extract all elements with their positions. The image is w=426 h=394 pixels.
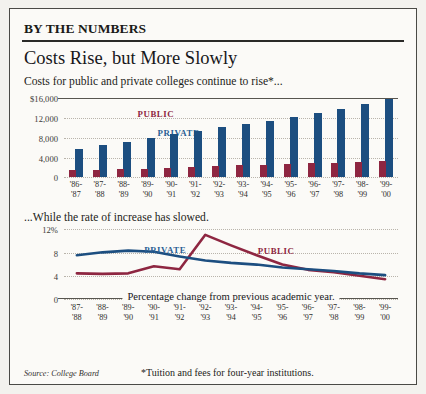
x-label-bottom: '95 bbox=[255, 190, 279, 200]
x-axis-label: '95-'96 bbox=[279, 180, 303, 200]
x-label-bottom: '95 bbox=[244, 313, 270, 323]
footnote-text: *Tuition and fees for four-year institut… bbox=[141, 367, 314, 378]
x-label-bottom: '90 bbox=[136, 190, 160, 200]
bar-private bbox=[385, 99, 393, 178]
x-label-bottom: '98 bbox=[326, 190, 350, 200]
bar-public bbox=[212, 166, 219, 177]
x-label-bottom: '89 bbox=[90, 313, 116, 323]
bar-public bbox=[331, 163, 338, 178]
infographic-content: BY THE NUMBERS Costs Rise, but More Slow… bbox=[22, 17, 404, 378]
x-label-bottom: '00 bbox=[374, 190, 398, 200]
bar-axis-line bbox=[58, 98, 398, 99]
x-label-top: '88- bbox=[90, 303, 116, 313]
x-axis-label: '89-'90 bbox=[136, 180, 160, 200]
x-axis-label: '92-'93 bbox=[192, 303, 218, 323]
line-series-svg bbox=[64, 229, 398, 299]
bar-public bbox=[308, 163, 315, 177]
bar-private bbox=[266, 121, 274, 178]
bar-plot-area: $16,00012,0008,0004,0000 PUBLIC PRIVATE bbox=[64, 98, 398, 177]
x-label-bottom: '00 bbox=[372, 313, 398, 323]
x-axis-label: '89-'90 bbox=[115, 303, 141, 323]
bar-group bbox=[88, 98, 112, 177]
x-axis-label: '88-'89 bbox=[112, 180, 136, 200]
bar-series-container bbox=[64, 98, 398, 177]
x-label-top: '89- bbox=[136, 180, 160, 190]
y-axis-tick: 8 bbox=[54, 249, 58, 259]
x-label-top: '96- bbox=[295, 303, 321, 313]
gridline: 0 bbox=[64, 177, 398, 178]
x-label-top: '90- bbox=[159, 180, 183, 190]
bar-public bbox=[236, 165, 243, 177]
y-axis-tick: 8,000 bbox=[39, 134, 58, 144]
x-axis-label: '97-'98 bbox=[321, 303, 347, 323]
x-axis-label: '87-'88 bbox=[88, 180, 112, 200]
x-label-bottom: '97 bbox=[295, 313, 321, 323]
x-label-top: '87- bbox=[64, 303, 90, 313]
bar-private bbox=[314, 113, 322, 177]
deck-text: Costs for public and private colleges co… bbox=[22, 75, 404, 88]
line-legend-public: PUBLIC bbox=[258, 246, 295, 256]
bar-group bbox=[255, 98, 279, 177]
bar-public bbox=[284, 164, 291, 177]
bar-group bbox=[112, 98, 136, 177]
bar-group bbox=[64, 98, 88, 177]
x-label-top: '91- bbox=[183, 180, 207, 190]
y-axis-tick: 4,000 bbox=[39, 154, 58, 164]
x-label-bottom: '93 bbox=[192, 313, 218, 323]
x-label-top: '96- bbox=[303, 180, 327, 190]
x-axis-label: '91-'92 bbox=[183, 180, 207, 200]
x-label-top: '87- bbox=[88, 180, 112, 190]
subhead-text: ...While the rate of increase has slowed… bbox=[22, 211, 404, 224]
line-plot-area: 12%840 PRIVATE PUBLIC Percentage change … bbox=[64, 229, 398, 299]
line-chart-caption: Percentage change from previous academic… bbox=[122, 291, 339, 302]
x-axis-label: '90-'91 bbox=[159, 180, 183, 200]
bar-private bbox=[337, 109, 345, 177]
x-label-bottom: '89 bbox=[112, 190, 136, 200]
x-label-top: '95- bbox=[270, 303, 296, 313]
x-label-top: '94- bbox=[255, 180, 279, 190]
x-axis-label: '93-'94 bbox=[218, 303, 244, 323]
x-label-top: '91- bbox=[167, 303, 193, 313]
bar-public bbox=[379, 161, 386, 178]
bar-private bbox=[218, 127, 226, 177]
x-label-top: '94- bbox=[244, 303, 270, 313]
x-label-bottom: '92 bbox=[183, 190, 207, 200]
page-title: Costs Rise, but More Slowly bbox=[22, 48, 404, 69]
kicker-label: BY THE NUMBERS bbox=[22, 17, 404, 40]
bar-private bbox=[361, 104, 369, 177]
x-label-bottom: '93 bbox=[207, 190, 231, 200]
x-axis-label: '93-'94 bbox=[231, 180, 255, 200]
x-label-top: '86- bbox=[64, 180, 88, 190]
bar-group bbox=[350, 98, 374, 177]
bar-group bbox=[326, 98, 350, 177]
x-label-bottom: '98 bbox=[321, 313, 347, 323]
bar-private bbox=[147, 138, 155, 178]
y-axis-tick: 0 bbox=[54, 295, 58, 305]
x-label-top: '88- bbox=[112, 180, 136, 190]
bar-private bbox=[242, 124, 250, 177]
x-label-top: '97- bbox=[321, 303, 347, 313]
x-label-bottom: '87 bbox=[64, 190, 88, 200]
x-label-bottom: '99 bbox=[350, 190, 374, 200]
y-axis-tick: 4 bbox=[54, 272, 58, 282]
bar-public bbox=[117, 169, 124, 177]
bar-private bbox=[290, 117, 298, 177]
infographic-frame: BY THE NUMBERS Costs Rise, but More Slow… bbox=[9, 8, 417, 385]
bar-private bbox=[75, 149, 83, 177]
bar-public bbox=[93, 170, 100, 177]
line-chart: 12%840 PRIVATE PUBLIC Percentage change … bbox=[22, 227, 404, 311]
x-label-top: '99- bbox=[374, 180, 398, 190]
x-label-bottom: '92 bbox=[167, 313, 193, 323]
y-axis-tick: 0 bbox=[54, 173, 58, 183]
bar-group bbox=[374, 98, 398, 177]
x-label-top: '99- bbox=[372, 303, 398, 313]
line-x-axis-labels: '87-'88'88-'89'89-'90'90-'91'91-'92'92-'… bbox=[64, 303, 398, 323]
header-rule bbox=[22, 40, 404, 42]
x-axis-label: '99-'00 bbox=[374, 180, 398, 200]
x-label-bottom: '97 bbox=[303, 190, 327, 200]
bar-private bbox=[99, 145, 107, 177]
x-label-top: '89- bbox=[115, 303, 141, 313]
bar-private bbox=[123, 142, 131, 178]
x-axis-label: '98-'99 bbox=[350, 180, 374, 200]
x-axis-label: '94-'95 bbox=[255, 180, 279, 200]
